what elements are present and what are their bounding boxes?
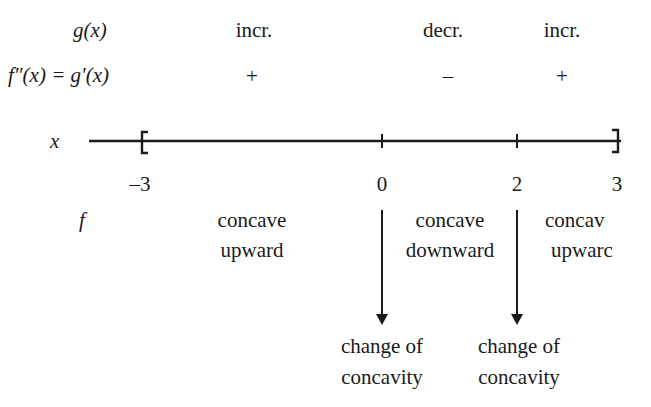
f-label: f — [79, 208, 85, 232]
sign-interval-1: + — [246, 64, 258, 88]
annotation-2-line2: concavity — [478, 365, 560, 389]
annotation-2-line1: change of — [478, 334, 560, 358]
x-label: x — [50, 129, 59, 153]
f-interval-3-line1: concav — [545, 208, 604, 232]
g-label: g(x) — [73, 18, 107, 42]
sign-interval-2: – — [443, 64, 454, 88]
sign-interval-3: + — [556, 64, 568, 88]
arrow-head-2 — [511, 314, 523, 325]
arrow-head-0 — [376, 314, 388, 325]
left-bracket — [142, 132, 148, 153]
tick-label-0: 0 — [377, 172, 388, 196]
g-interval-1: incr. — [236, 18, 273, 42]
f-interval-1-line1: concave — [218, 208, 287, 232]
f-interval-2-line2: downward — [406, 238, 495, 262]
tick-label-3: 3 — [612, 172, 623, 196]
f-interval-2-line1: concave — [416, 208, 485, 232]
g-interval-2: decr. — [423, 18, 463, 42]
f-interval-1-line2: upward — [221, 238, 284, 262]
annotation-0-line1: change of — [341, 334, 423, 358]
g-interval-3: incr. — [544, 18, 581, 42]
tick-label-neg3: –3 — [130, 172, 151, 196]
tick-label-2: 2 — [512, 172, 523, 196]
fpp-label: f″(x) = g′(x) — [8, 63, 109, 87]
f-interval-3-line2: upwarc — [551, 238, 613, 262]
annotation-0-line2: concavity — [341, 365, 423, 389]
